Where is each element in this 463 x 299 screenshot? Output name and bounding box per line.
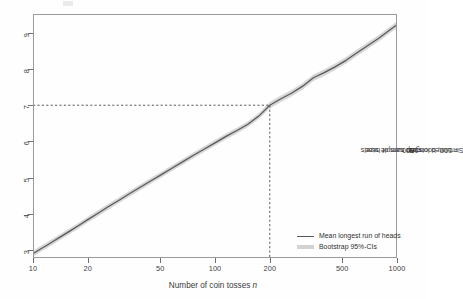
- y-tick-label: 3: [22, 250, 31, 254]
- y-tick-label: 7: [22, 105, 31, 109]
- x-tick-mark: [215, 258, 216, 263]
- x-tick-mark: [33, 258, 34, 263]
- right-axis-title: Simulated longest runs of heads N = 500,…: [405, 0, 419, 299]
- top-edge-artifact: [63, 1, 73, 6]
- legend-item-mean: Mean longest run of heads: [297, 231, 393, 242]
- y-tick-label: 8: [22, 69, 31, 73]
- x-axis-title: Number of coin tosses n: [0, 281, 426, 290]
- x-axis-title-text: Number of coin tosses: [169, 281, 253, 290]
- legend-label-ci: Bootstrap 95%-CIs: [319, 242, 377, 253]
- x-tick-mark: [160, 258, 161, 263]
- x-tick-label: 100: [209, 264, 222, 273]
- y-tick-label: 6: [22, 141, 31, 145]
- line-swatch-icon: [297, 236, 314, 237]
- x-tick-mark: [88, 258, 89, 263]
- x-tick-label: 1000: [389, 264, 406, 273]
- x-tick-label: 50: [156, 264, 164, 273]
- legend-label-mean: Mean longest run of heads: [319, 231, 401, 242]
- y-tick-label: 4: [22, 214, 31, 218]
- x-tick-label: 10: [29, 264, 37, 273]
- y-tick-label: 9: [22, 33, 31, 37]
- band-swatch-icon: [297, 245, 314, 249]
- x-tick-label: 200: [263, 264, 276, 273]
- x-axis-title-variable: n: [253, 281, 258, 290]
- y-tick-label: 5: [22, 178, 31, 182]
- x-tick-mark: [397, 258, 398, 263]
- legend: Mean longest run of heads Bootstrap 95%-…: [297, 231, 393, 252]
- x-tick-label: 500: [336, 264, 349, 273]
- plot-frame: [33, 14, 397, 258]
- x-tick-mark: [270, 258, 271, 263]
- legend-item-ci: Bootstrap 95%-CIs: [297, 242, 393, 253]
- x-tick-mark: [342, 258, 343, 263]
- x-tick-label: 20: [84, 264, 92, 273]
- right-axis-title-part3: =1000: [402, 146, 422, 154]
